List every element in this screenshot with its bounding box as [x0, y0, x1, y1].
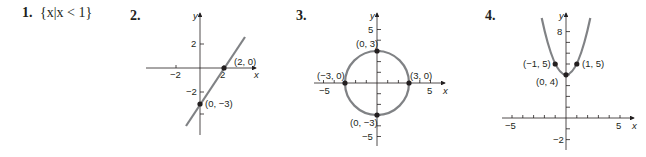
graphs-canvas: −2 2 2 −2 y x (2, 0) (0, −3)	[0, 0, 646, 157]
y-axis-label: y	[369, 10, 376, 21]
point-label: (−1, 5)	[523, 58, 551, 69]
y-axis-label: y	[192, 10, 199, 21]
point-marker	[197, 101, 202, 106]
x-tick-label: 5	[616, 120, 621, 131]
y-tick-label: 8	[557, 26, 562, 37]
point-marker	[374, 48, 379, 53]
y-tick-label: 5	[368, 24, 373, 35]
point-label: (0, 3)	[356, 38, 378, 49]
x-tick-label: 5	[427, 85, 432, 96]
point-marker	[574, 61, 579, 66]
point-marker	[563, 72, 568, 77]
x-axis-label: x	[442, 85, 449, 96]
graph-3: −5 5 5 −5 y x (0, 3) (−3, 0) (3, 0) (0, …	[314, 10, 449, 146]
y-tick-label: −5	[362, 131, 373, 142]
point-label: (0, −3)	[350, 117, 378, 128]
point-marker	[406, 80, 411, 85]
y-tick-label: 2	[191, 38, 196, 49]
point-label: (1, 5)	[582, 58, 604, 69]
point-label: (2, 0)	[234, 56, 256, 67]
x-tick-label: −5	[319, 85, 330, 96]
point-marker	[342, 80, 347, 85]
point-marker	[553, 61, 558, 66]
graph-4: −5 5 8 −2 y x (−1, 5) (1, 5) (0, 4)	[502, 10, 638, 150]
y-axis-label: y	[558, 10, 565, 21]
y-tick-label: −2	[553, 134, 564, 145]
point-label: (3, 0)	[410, 70, 432, 81]
x-tick-label: −5	[505, 120, 516, 131]
point-marker	[221, 65, 226, 70]
line-curve	[186, 37, 245, 126]
point-label: (0, −3)	[205, 98, 233, 109]
x-axis-label: x	[631, 120, 638, 131]
point-label: (0, 4)	[536, 76, 558, 87]
x-axis-label: x	[253, 69, 260, 80]
x-tick-label: −2	[170, 69, 181, 80]
point-label: (−3, 0)	[317, 70, 345, 81]
y-tick-label: −2	[186, 86, 197, 97]
graph-2: −2 2 2 −2 y x (2, 0) (0, −3)	[146, 10, 260, 135]
